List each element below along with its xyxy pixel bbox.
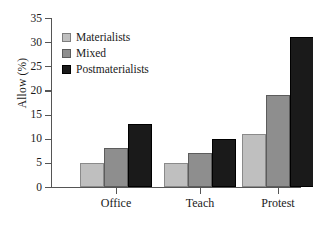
legend-label: Mixed	[76, 47, 106, 59]
y-axis-tick-label: 30	[31, 35, 43, 49]
x-axis-line	[51, 187, 301, 188]
bar	[128, 124, 152, 187]
chart-legend: MaterialistsMixedPostmaterialists	[62, 30, 149, 78]
y-axis-tick: 15	[45, 115, 52, 116]
bar	[164, 163, 188, 187]
y-axis-tick: 35	[45, 18, 52, 19]
bar-group	[164, 18, 242, 187]
y-axis-tick-label: 35	[31, 11, 43, 25]
y-axis-tick: 20	[45, 90, 52, 91]
bar	[212, 139, 236, 187]
legend-swatch-icon	[62, 49, 71, 58]
x-axis-label: Teach	[160, 196, 240, 211]
legend-label: Materialists	[76, 31, 130, 43]
y-axis-tick: 5	[45, 163, 52, 164]
bar	[104, 148, 128, 187]
y-axis-tick-label: 25	[31, 59, 43, 73]
legend-item: Postmaterialists	[62, 62, 149, 76]
bar	[266, 95, 290, 187]
y-axis-label: Allow (%)	[16, 28, 28, 138]
y-axis-tick: 10	[45, 139, 52, 140]
bar-chart: Allow (%) 05101520253035 OfficeTeachProt…	[0, 0, 313, 228]
legend-item: Mixed	[62, 46, 149, 60]
x-axis-tick	[200, 187, 201, 194]
y-axis-tick-label: 5	[36, 155, 42, 169]
y-axis-tick-label: 10	[31, 131, 43, 145]
bar	[290, 37, 313, 187]
y-axis-tick-label: 15	[31, 107, 43, 121]
x-axis-tick	[116, 187, 117, 194]
y-axis-tick-label: 0	[36, 180, 42, 194]
y-axis-tick: 30	[45, 42, 52, 43]
y-axis-tick: 0	[45, 187, 52, 188]
bar	[188, 153, 212, 187]
bar	[242, 134, 266, 187]
bar-group	[242, 18, 313, 187]
legend-label: Postmaterialists	[76, 63, 149, 75]
y-axis-tick-label: 20	[31, 83, 43, 97]
x-axis-label: Protest	[238, 196, 313, 211]
legend-swatch-icon	[62, 33, 71, 42]
legend-item: Materialists	[62, 30, 149, 44]
x-axis-label: Office	[76, 196, 156, 211]
legend-swatch-icon	[62, 65, 71, 74]
x-axis-tick	[278, 187, 279, 194]
y-axis-tick: 25	[45, 66, 52, 67]
bar	[80, 163, 104, 187]
